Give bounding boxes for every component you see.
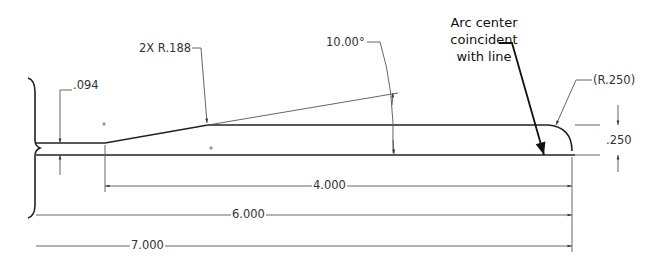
- dim-angle: 10.00°: [325, 36, 366, 49]
- dim-thickness-small: .094: [72, 79, 100, 92]
- note-line-2: coincident: [432, 31, 536, 48]
- note-line-1: Arc center: [432, 14, 536, 31]
- dim-thickness-end: .250: [605, 134, 633, 147]
- note-line-3: with line: [432, 48, 536, 65]
- part-profile: [36, 125, 575, 155]
- dim-length-7: 7.000: [130, 239, 165, 252]
- dim-fillet-radius: 2X R.188: [138, 42, 192, 55]
- break-brace: [28, 78, 40, 218]
- dim-length-4: 4.000: [312, 179, 347, 192]
- dim-length-6: 6.000: [231, 208, 266, 221]
- annotation-note: Arc center coincident with line: [432, 14, 536, 65]
- dim-end-radius: (R.250): [592, 74, 636, 87]
